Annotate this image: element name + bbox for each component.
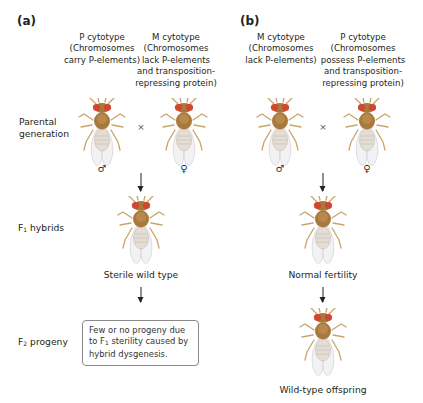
row-label-line: generation	[19, 128, 69, 140]
panel-b-label: (b)	[240, 14, 260, 28]
col-line: repressing protein)	[135, 78, 217, 89]
fly-icon	[158, 98, 210, 168]
col-title: M cytotype	[245, 32, 316, 43]
row-label-line: Parental	[19, 116, 69, 128]
row-label-text: progeny	[27, 336, 68, 347]
arrow-down-icon	[323, 173, 324, 191]
note-line: Few or no progeny due	[89, 325, 192, 336]
arrow-down-icon	[141, 173, 142, 191]
col-line: (Chromosomes	[135, 43, 217, 54]
cross-symbol: ×	[319, 122, 327, 132]
fly-icon	[254, 98, 306, 168]
female-symbol-icon: ♀	[180, 163, 187, 174]
cross-symbol: ×	[137, 122, 145, 132]
male-symbol-icon: ♂	[98, 163, 107, 174]
fly-icon	[297, 196, 349, 266]
male-symbol-icon: ♂	[276, 163, 285, 174]
f2-caption-b: Wild-type offspring	[279, 384, 366, 395]
fly-icon	[115, 196, 167, 266]
row-label-f1: F1 hybrids	[18, 222, 64, 236]
fly-icon	[76, 98, 128, 168]
f1-caption-a: Sterile wild type	[104, 269, 178, 280]
note-line: hybrid dysgenesis.	[89, 349, 192, 360]
arrow-down-icon	[141, 287, 142, 302]
col-line: repressing protein)	[321, 78, 406, 89]
panel-a-label: (a)	[17, 14, 36, 28]
col-line: lack P-elements	[135, 55, 217, 66]
panel-b-col2-header: P cytotype (Chromosomes possess P-elemen…	[321, 32, 406, 89]
row-label-text: hybrids	[27, 222, 64, 233]
fly-icon	[341, 98, 393, 168]
note-text: sterility caused by	[109, 336, 189, 346]
col-line: (Chromosomes	[64, 43, 140, 54]
row-label-f2: F2 progeny	[18, 336, 68, 350]
col-line: lack P-elements)	[245, 55, 316, 66]
female-symbol-icon: ♀	[363, 163, 370, 174]
fly-icon	[297, 308, 349, 378]
f2-note-box: Few or no progeny due to F1 sterility ca…	[82, 320, 199, 366]
col-line: carry P-elements)	[64, 55, 140, 66]
note-text: to F	[89, 336, 105, 346]
col-title: P cytotype	[321, 32, 406, 43]
col-line: possess P-elements	[321, 55, 406, 66]
panel-b-col1-header: M cytotype (Chromosomes lack P-elements)	[245, 32, 316, 66]
row-label-parental: Parental generation	[19, 116, 69, 140]
panel-a-col2-header: M cytotype (Chromosomes lack P-elements …	[135, 32, 217, 89]
arrow-down-icon	[323, 287, 324, 302]
col-line: (Chromosomes	[245, 43, 316, 54]
col-line: (Chromosomes	[321, 43, 406, 54]
note-line: to F1 sterility caused by	[89, 336, 192, 348]
col-line: and transposition-	[321, 66, 406, 77]
f1-caption-b: Normal fertility	[288, 269, 357, 280]
col-title: M cytotype	[135, 32, 217, 43]
panel-a-col1-header: P cytotype (Chromosomes carry P-elements…	[64, 32, 140, 66]
col-line: and transposition-	[135, 66, 217, 77]
col-title: P cytotype	[64, 32, 140, 43]
